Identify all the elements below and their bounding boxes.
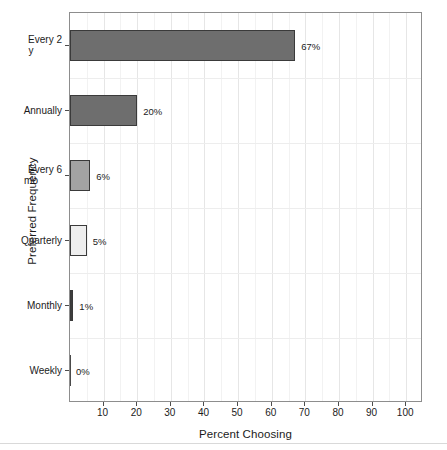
x-tick-mark — [338, 402, 339, 406]
gridline-major — [137, 13, 138, 401]
gridline-horizontal — [70, 143, 421, 144]
gridline-major — [339, 13, 340, 401]
bar-value-label: 1% — [79, 300, 93, 311]
gridline-minor — [356, 13, 357, 401]
gridline-major — [272, 13, 273, 401]
y-tick-mark — [65, 110, 69, 111]
bar — [70, 30, 295, 61]
bar — [70, 160, 90, 191]
bar-value-label: 20% — [143, 105, 162, 116]
gridline-minor — [154, 13, 155, 401]
gridline-major — [373, 13, 374, 401]
x-tick-label: 90 — [357, 407, 387, 418]
x-axis-title: Percent Choosing — [69, 428, 422, 440]
x-tick-mark — [203, 402, 204, 406]
bar — [70, 225, 87, 256]
x-tick-label: 50 — [222, 407, 252, 418]
y-tick-mark — [65, 370, 69, 371]
gridline-minor — [289, 13, 290, 401]
x-tick-mark — [271, 402, 272, 406]
gridline-horizontal — [70, 208, 421, 209]
bar — [70, 95, 137, 126]
y-tick-mark — [65, 240, 69, 241]
gridline-major — [406, 13, 407, 401]
plot-panel: 67%20%6%5%1%0% — [69, 12, 422, 402]
x-tick-mark — [170, 402, 171, 406]
bar — [70, 290, 73, 321]
gridline-major — [204, 13, 205, 401]
bar-value-label: 67% — [301, 40, 320, 51]
y-tick-label: Monthly — [0, 299, 62, 310]
x-tick-mark — [405, 402, 406, 406]
y-tick-label: Every 6mo — [0, 164, 62, 186]
x-tick-label: 10 — [88, 407, 118, 418]
x-tick-mark — [103, 402, 104, 406]
y-tick-mark — [65, 175, 69, 176]
y-tick-label: Annually — [0, 104, 62, 115]
x-tick-mark — [372, 402, 373, 406]
gridline-minor — [188, 13, 189, 401]
plot-area: 67%20%6%5%1%0% — [70, 13, 421, 401]
gridline-minor — [120, 13, 121, 401]
x-tick-mark — [237, 402, 238, 406]
gridline-major — [171, 13, 172, 401]
footer-divider — [0, 443, 447, 444]
x-tick-label: 60 — [256, 407, 286, 418]
y-axis-title: Preferred Frequency — [26, 101, 38, 321]
y-tick-label: Weekly — [0, 364, 62, 375]
gridline-major — [104, 13, 105, 401]
gridline-minor — [255, 13, 256, 401]
gridline-horizontal — [70, 338, 421, 339]
gridline-major — [305, 13, 306, 401]
x-tick-mark — [304, 402, 305, 406]
x-tick-label: 70 — [289, 407, 319, 418]
bar-chart-figure: Preferred Frequency Percent Choosing 67%… — [0, 0, 447, 450]
y-tick-label: Quarterly — [0, 234, 62, 245]
x-tick-label: 40 — [188, 407, 218, 418]
y-tick-label: Every 2y — [0, 34, 62, 56]
x-tick-label: 30 — [155, 407, 185, 418]
gridline-minor — [221, 13, 222, 401]
y-tick-mark — [65, 45, 69, 46]
gridline-major — [238, 13, 239, 401]
bar — [70, 355, 71, 386]
gridline-minor — [322, 13, 323, 401]
gridline-minor — [87, 13, 88, 401]
x-tick-label: 100 — [390, 407, 420, 418]
x-tick-mark — [136, 402, 137, 406]
y-tick-mark — [65, 305, 69, 306]
gridline-minor — [389, 13, 390, 401]
x-tick-label: 80 — [323, 407, 353, 418]
x-tick-label: 20 — [121, 407, 151, 418]
bar-value-label: 0% — [76, 365, 90, 376]
gridline-horizontal — [70, 78, 421, 79]
bar-value-label: 6% — [96, 170, 110, 181]
bar-value-label: 5% — [93, 235, 107, 246]
gridline-horizontal — [70, 273, 421, 274]
